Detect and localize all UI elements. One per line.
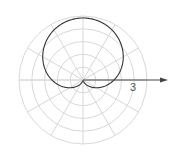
axis-label: 3 bbox=[130, 81, 136, 93]
arrow-head-icon bbox=[160, 78, 168, 83]
polar-plot: 3 bbox=[0, 0, 180, 153]
